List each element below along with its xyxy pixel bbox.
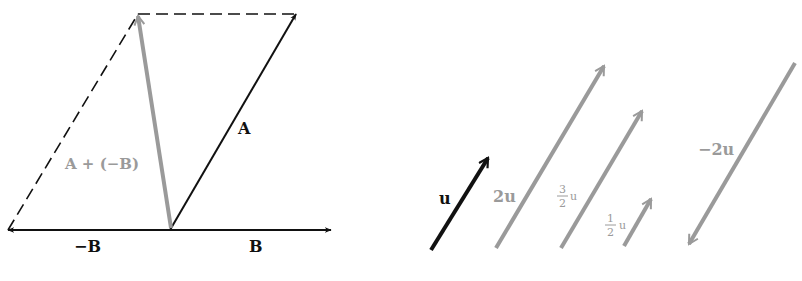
- label-2u: 2u: [493, 187, 516, 206]
- fraction-numerator: 3: [559, 183, 566, 196]
- fraction-variable: u: [570, 190, 577, 203]
- label-three-halves-u: 3 2 u: [557, 183, 577, 210]
- fraction-denominator: 2: [559, 197, 566, 210]
- label-half-u: 1 2 u: [605, 212, 626, 239]
- vector-a-arrow: [170, 14, 296, 230]
- label-u: u: [439, 189, 451, 208]
- label-a: A: [237, 119, 251, 138]
- label-b: B: [249, 237, 263, 256]
- fraction-numerator: 1: [607, 212, 614, 225]
- label-neg-b: −B: [74, 237, 101, 256]
- fraction-variable: u: [619, 219, 626, 232]
- label-a-plus-neg-b: A + (−B): [64, 155, 139, 173]
- vector-half-u-arrow: [624, 199, 651, 246]
- label-neg-2u: −2u: [698, 140, 735, 159]
- right-panel: u 2u 3 2 u 1 2 u −2u: [431, 63, 795, 250]
- vector-three-halves-u-arrow: [561, 111, 642, 248]
- construction-line-left: [8, 14, 138, 230]
- vector-a-plus-neg-b-arrow: [138, 16, 171, 228]
- vector-diagram: A A + (−B) −B B u 2u 3 2 u 1 2 u −2u: [0, 0, 802, 281]
- fraction-denominator: 2: [607, 226, 614, 239]
- vector-2u-arrow: [496, 66, 604, 248]
- left-panel: A A + (−B) −B B: [8, 14, 331, 256]
